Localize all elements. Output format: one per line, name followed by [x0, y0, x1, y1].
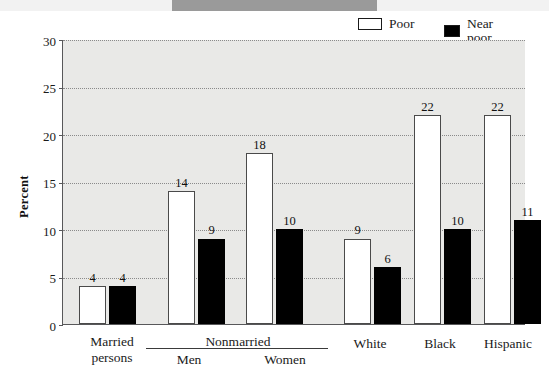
bar-label-women-poor: 18 — [244, 139, 275, 152]
bar-married-poor — [79, 286, 106, 324]
ytick-30 — [59, 40, 63, 41]
bar-label-married-near-poor: 4 — [107, 272, 138, 285]
y-tick-label-20: 20 — [18, 130, 56, 143]
y-tick-label-10: 10 — [18, 225, 56, 238]
bar-men-poor — [168, 191, 195, 324]
y-tick-label-5: 5 — [18, 272, 56, 285]
bar-black-near-poor — [444, 229, 471, 324]
bar-label-black-near-poor: 10 — [442, 215, 473, 228]
x-label-white: White — [330, 336, 410, 352]
ytick-5 — [59, 278, 63, 279]
bar-label-men-poor: 14 — [166, 177, 197, 190]
legend-label-poor: Poor — [389, 17, 415, 31]
bar-label-white-poor: 9 — [342, 224, 373, 237]
chart-page: Poor Near poor 4 4 14 — [0, 0, 549, 376]
y-tick-label-15: 15 — [18, 177, 56, 190]
plot-area: 4 4 14 9 18 10 9 6 22 10 22 — [62, 40, 525, 325]
x-label-women: Women — [245, 352, 325, 368]
gridline-25 — [63, 88, 525, 89]
bar-label-married-poor: 4 — [77, 272, 108, 285]
gridline-30 — [63, 40, 525, 41]
ytick-0 — [59, 325, 63, 326]
x-label-hispanic: Hispanic — [468, 336, 548, 352]
bar-white-poor — [344, 239, 371, 325]
bar-white-near-poor — [374, 267, 401, 324]
gridline-20 — [63, 135, 525, 136]
bar-hispanic-near-poor — [514, 220, 541, 325]
clipped-title-band-inner — [172, 0, 377, 11]
black-square-swatch-icon — [444, 25, 460, 37]
bar-hispanic-poor — [484, 115, 511, 324]
bar-label-men-near-poor: 9 — [196, 224, 227, 237]
ytick-25 — [59, 88, 63, 89]
bar-label-women-near-poor: 10 — [274, 215, 305, 228]
nonmarried-bracket — [146, 348, 328, 349]
x-label-men: Men — [149, 352, 229, 368]
bar-women-poor — [246, 153, 273, 324]
y-tick-label-25: 25 — [18, 82, 56, 95]
ytick-15 — [59, 183, 63, 184]
white-square-swatch-icon — [358, 18, 382, 30]
y-tick-label-30: 30 — [18, 35, 56, 48]
bar-married-near-poor — [109, 286, 136, 324]
clipped-title-band — [0, 0, 549, 11]
bar-men-near-poor — [198, 239, 225, 325]
gridline-15 — [63, 183, 525, 184]
bar-label-hispanic-poor: 22 — [482, 101, 513, 114]
bar-label-black-poor: 22 — [412, 101, 443, 114]
bar-label-white-near-poor: 6 — [372, 253, 403, 266]
legend-item-poor: Poor — [358, 17, 415, 31]
bar-label-hispanic-near-poor: 11 — [512, 206, 543, 219]
ytick-20 — [59, 135, 63, 136]
x-label-married-line2: persons — [72, 350, 152, 366]
x-label-married-line1: Married — [72, 334, 152, 350]
y-tick-label-0: 0 — [18, 320, 56, 333]
ytick-10 — [59, 230, 63, 231]
bar-black-poor — [414, 115, 441, 324]
bar-women-near-poor — [276, 229, 303, 324]
